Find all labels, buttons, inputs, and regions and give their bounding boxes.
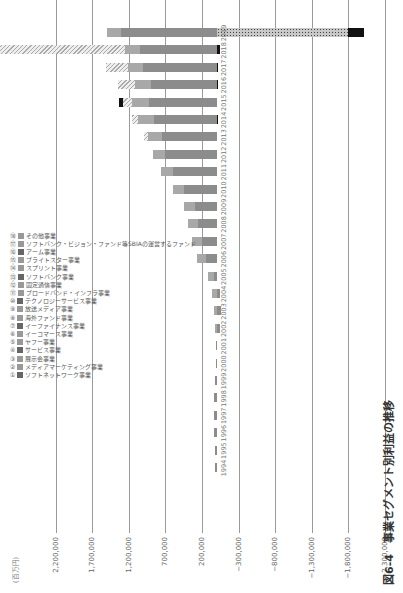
gridline [92, 0, 93, 533]
legend-item: ⑥イーコマース事業 [10, 329, 73, 338]
year-label: 1999 [220, 371, 228, 391]
legend-swatch [18, 240, 24, 246]
year-label: 2003 [220, 301, 228, 321]
bar-segment [214, 428, 216, 437]
bar-segment [154, 115, 216, 124]
legend-swatch [17, 331, 23, 337]
bar-segment [208, 272, 215, 281]
tick-label: −800,000 [271, 537, 279, 581]
year-label: 2011 [220, 162, 228, 182]
bar-segment [125, 45, 140, 54]
year-label: 2016 [220, 75, 228, 95]
bar-segment [195, 202, 217, 211]
bar-segment [162, 132, 217, 141]
legend-swatch [17, 355, 23, 361]
bar-segment [132, 115, 138, 124]
legend-item: ⑰ソフトバンク・ビジョン・ファンド等SBIAの運営するファンド [10, 239, 196, 248]
bar-segment [143, 63, 216, 72]
bar-segment [106, 63, 128, 72]
legend-swatch [17, 372, 23, 378]
bar-segment [173, 185, 184, 194]
year-label: 2007 [220, 232, 228, 252]
bar-segment [128, 63, 143, 72]
year-label: 2010 [220, 180, 228, 200]
year-label: 1995 [220, 441, 228, 461]
bar-segment [173, 167, 217, 176]
bar-segment [198, 219, 216, 228]
bar-segment [202, 237, 217, 246]
unit-label: (百万円) [10, 557, 20, 583]
bar-segment [132, 98, 150, 107]
legend-swatch [18, 232, 24, 238]
bar-segment [215, 376, 216, 385]
legend-swatch [17, 322, 23, 328]
legend-swatch [18, 281, 24, 287]
bar-segment [0, 45, 125, 54]
year-label: 2017 [220, 58, 228, 78]
bar-segment [217, 115, 218, 124]
bar-segment [217, 28, 349, 37]
bar-segment [212, 289, 216, 298]
tick-label: −1,300,000 [308, 537, 316, 581]
bar-segment [118, 80, 135, 89]
legend-swatch [18, 249, 24, 255]
bar-segment [214, 393, 216, 402]
year-label: 2019 [220, 23, 228, 43]
bar-segment [121, 28, 216, 37]
bar-segment [148, 132, 162, 141]
year-label: 1997 [220, 406, 228, 426]
year-label: 2004 [220, 284, 228, 304]
chart-title: 図6-4 事業セグメント別利益の推移 [380, 400, 396, 585]
legend-item: ⑱その他事業 [10, 231, 56, 240]
bar-segment [217, 63, 218, 72]
gridline [239, 0, 240, 533]
bar-segment [197, 254, 206, 263]
bar-segment [184, 202, 195, 211]
bar-segment [206, 254, 217, 263]
bar-segment [215, 446, 217, 455]
bar-segment [161, 167, 173, 176]
legend-swatch [17, 298, 23, 304]
bar-segment [215, 324, 216, 333]
legend-item: ⑮ブライトスター事業 [10, 255, 80, 264]
year-label: 2005 [220, 267, 228, 287]
legend-item: ③展示会事業 [10, 354, 55, 363]
year-label: 2009 [220, 197, 228, 217]
bar-segment [217, 80, 218, 89]
tick-label: 1,200,000 [125, 537, 133, 581]
year-label: 2013 [220, 127, 228, 147]
legend-item: ⑪ブロードバンド・インフラ事業 [10, 288, 110, 297]
year-label: 2000 [220, 354, 228, 374]
bar-segment [149, 98, 216, 107]
bar-segment [107, 28, 122, 37]
legend-item: ⑭スプリント事業 [10, 263, 68, 272]
bar-segment [123, 98, 132, 107]
legend-swatch [17, 363, 23, 369]
year-label: 2008 [220, 214, 228, 234]
bar-segment [135, 80, 151, 89]
bar-segment [216, 359, 217, 368]
bar-segment [348, 28, 364, 37]
legend-swatch [17, 314, 23, 320]
bar-segment [214, 272, 216, 281]
bar-segment [138, 115, 154, 124]
legend-item: ①ソフトネットワーク事業 [10, 370, 91, 379]
tick-label: 1,700,000 [88, 537, 96, 581]
bar-segment [216, 341, 217, 350]
year-label: 2015 [220, 93, 228, 113]
year-label: 2006 [220, 249, 228, 269]
year-label: 2001 [220, 336, 228, 356]
legend-item: ⑩テクノロジーサービス事業 [10, 296, 97, 305]
legend-item: ⑫固定通信事業 [10, 280, 62, 289]
gridline [275, 0, 276, 533]
legend-swatch [18, 257, 24, 263]
tick-label: −300,000 [235, 537, 243, 581]
bar-segment [140, 45, 217, 54]
legend-swatch [18, 290, 24, 296]
gridline [312, 0, 313, 533]
year-label: 2002 [220, 319, 228, 339]
legend-item: ⑯アーム事業 [10, 247, 56, 256]
legend-item: ⑦イーファイナンス事業 [10, 321, 85, 330]
bar-segment [165, 150, 216, 159]
legend-item: ⑨放送メディア事業 [10, 304, 73, 313]
